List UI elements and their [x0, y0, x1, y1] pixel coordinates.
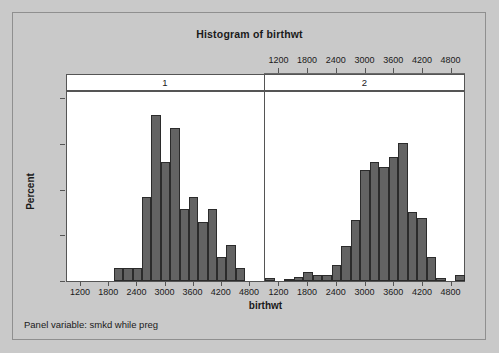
panel-variable-footer: Panel variable: smkd while preg [24, 319, 158, 330]
histogram-bar [360, 170, 370, 281]
histogram-bar [114, 268, 123, 281]
top-axis-tick [393, 68, 394, 73]
x-axis-tick [451, 282, 452, 286]
top-axis-tick [451, 68, 452, 73]
y-axis-tick [60, 235, 65, 236]
x-axis-tick [136, 282, 137, 286]
x-axis-tick-label: 4200 [412, 287, 432, 297]
histogram-bar [303, 272, 313, 281]
x-axis-tick-label: 3600 [383, 287, 403, 297]
panel-2-bars [265, 91, 465, 281]
histogram-bar [189, 197, 198, 281]
top-axis-tick-label: 1800 [297, 55, 317, 65]
top-axis-tick-label: 2400 [326, 55, 346, 65]
y-axis-tick [60, 281, 65, 282]
histogram-bar [198, 222, 207, 281]
x-axis-tick-label: 3000 [154, 287, 174, 297]
y-axis-tick [60, 98, 65, 99]
top-axis-panel-2: 1200180024003000360042004800 [264, 55, 465, 75]
histogram-bar [351, 220, 361, 281]
histogram-bar [226, 245, 235, 281]
histogram-bar [180, 209, 189, 281]
plot-area [66, 91, 465, 281]
x-axis-title: birthwt [66, 300, 465, 311]
y-axis-title: Percent [25, 152, 36, 232]
x-axis-tick [80, 282, 81, 286]
x-axis-tick [221, 282, 222, 286]
histogram-bar [332, 265, 342, 281]
x-axis-tick [108, 282, 109, 286]
x-axis-tick [278, 282, 279, 286]
histogram-bar [236, 268, 245, 281]
plot-top-rule [66, 91, 465, 92]
x-axis-tick-label: 1800 [98, 287, 118, 297]
x-axis-tick-label: 3600 [183, 287, 203, 297]
panel-1-bars [67, 91, 264, 281]
x-axis-tick-label: 4800 [239, 287, 259, 297]
top-axis-tick [422, 68, 423, 73]
x-axis-tick [336, 282, 337, 286]
histogram-bar [142, 197, 151, 281]
x-axis-tick [393, 282, 394, 286]
chart-root: Histogram of birthwt 1200180024003000360… [0, 0, 499, 353]
top-axis-tick-label: 3000 [354, 55, 374, 65]
x-axis-tick [307, 282, 308, 286]
x-axis-tick-label: 4800 [441, 287, 461, 297]
histogram-bar [398, 143, 408, 281]
x-axis-tick-label: 1200 [268, 287, 288, 297]
x-axis-tick-label: 2400 [326, 287, 346, 297]
y-axis-tick [60, 190, 65, 191]
histogram-bar [408, 212, 418, 281]
histogram-bar [208, 209, 217, 281]
x-axis-tick-label: 4200 [211, 287, 231, 297]
chart-title: Histogram of birthwt [0, 28, 499, 40]
top-axis-tick-label: 1200 [268, 55, 288, 65]
top-axis-tick [365, 68, 366, 73]
panel-header-2: 2 [265, 75, 464, 90]
x-axis-tick-label: 1800 [297, 287, 317, 297]
x-axis-tick-label: 3000 [354, 287, 374, 297]
panel-header-1: 1 [67, 75, 263, 90]
histogram-bar [161, 162, 170, 281]
histogram-bar [370, 162, 380, 281]
top-axis-tick-label: 4200 [412, 55, 432, 65]
panel-header-strip: 1 2 [66, 74, 465, 91]
x-axis-tick [249, 282, 250, 286]
top-axis-tick [307, 68, 308, 73]
histogram-bar [217, 257, 226, 281]
histogram-bar [170, 128, 179, 281]
x-axis-tick [365, 282, 366, 286]
top-axis-tick-label: 3600 [383, 55, 403, 65]
top-axis-tick [336, 68, 337, 73]
histogram-bar [123, 268, 132, 281]
top-axis-tick [278, 68, 279, 73]
x-axis-tick [193, 282, 194, 286]
x-axis-tick [422, 282, 423, 286]
x-axis-tick-label: 2400 [126, 287, 146, 297]
histogram-bar [133, 268, 142, 281]
histogram-bar [417, 218, 427, 281]
x-axis-tick-label: 1200 [70, 287, 90, 297]
histogram-bar [389, 157, 399, 281]
top-axis-tick-label: 4800 [441, 55, 461, 65]
y-axis: Percent 05101520 [0, 0, 66, 353]
y-axis-tick [60, 144, 65, 145]
histogram-bar [427, 257, 437, 281]
x-axis-tick [165, 282, 166, 286]
histogram-bar [379, 167, 389, 281]
histogram-bar [341, 246, 351, 281]
histogram-bar [151, 115, 160, 281]
